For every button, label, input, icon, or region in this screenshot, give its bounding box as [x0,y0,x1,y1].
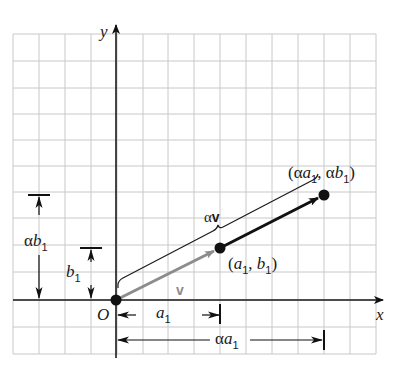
vector-scalar-diagram: y x O αv v (a1, b1) (αa1, αb1) a1 αa1 [0,0,394,365]
point-a1-b1 [215,243,226,254]
svg-text:αa1: αa1 [215,329,239,351]
vector-v-label: v [176,282,184,298]
origin-point [111,295,122,306]
vector-alpha-v [220,198,318,248]
alpha-v-brace [118,174,318,288]
svg-text:b1: b1 [66,262,81,284]
b1-dimension: b1 [66,248,102,298]
alpha-v-label: αv [204,209,220,225]
svg-text:αb1: αb1 [24,231,48,253]
a1-dimension: a1 [118,303,220,325]
point-a1-b1-label: (a1, b1) [228,254,277,276]
origin-label: O [97,305,109,324]
alpha-a1-dimension: αa1 [118,329,324,351]
point-alpha-a1-alpha-b1 [319,190,330,201]
y-axis-label: y [98,22,108,41]
alpha-b1-dimension: αb1 [24,195,50,298]
vector-v [116,251,214,300]
x-axis-label: x [375,305,384,324]
